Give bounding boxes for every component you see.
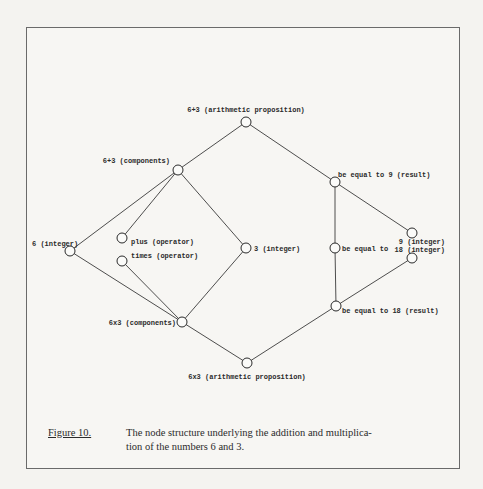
edge-add_prop-eq9: [246, 122, 335, 182]
edge-eq18-eighteen: [336, 258, 412, 306]
edge-add_comp-three: [178, 170, 246, 248]
label-times-operator: times (operator): [131, 252, 198, 260]
node-plus-operator: [117, 233, 127, 243]
node-add-proposition: [241, 117, 251, 127]
label-plus-operator: plus (operator): [131, 238, 194, 246]
edge-mul_prop-eq18: [247, 306, 336, 363]
node-three-integer: [241, 243, 251, 253]
node-times-operator: [117, 256, 127, 266]
node-be-equal-to: [330, 243, 340, 253]
edge-eq-eq18: [335, 248, 336, 306]
node-mul-proposition: [242, 358, 252, 368]
labels-layer: 6+3 (arithmetic proposition) 6+3 (compon…: [32, 106, 445, 381]
label-add-components: 6+3 (components): [103, 157, 170, 165]
label-equal-18-result: be equal to 18 (result): [342, 307, 439, 315]
label-mul-proposition: 6x3 (arithmetic proposition): [188, 373, 306, 381]
node-add-components: [173, 165, 183, 175]
edge-times-mul_comp: [122, 261, 182, 322]
edge-eq9-nine: [335, 182, 412, 233]
caption-text: The node structure underlying the additi…: [126, 426, 446, 454]
label-eighteen-integer: 18 (integer): [395, 246, 445, 254]
label-three-integer: 3 (integer): [254, 245, 300, 253]
node-equal-18-result: [331, 301, 341, 311]
caption-line-1: The node structure underlying the additi…: [126, 426, 446, 440]
caption-line-2: tion of the numbers 6 and 3.: [126, 440, 446, 454]
figure-number: Figure 10.: [48, 426, 91, 440]
label-nine-integer: 9 (integer): [399, 238, 445, 246]
node-mul-components: [177, 317, 187, 327]
label-add-proposition: 6+3 (arithmetic proposition): [187, 106, 305, 114]
node-eighteen-integer: [407, 253, 417, 263]
label-equal-9-result: be equal to 9 (result): [338, 171, 430, 179]
label-mul-components: 6x3 (components): [109, 319, 176, 327]
edge-add_comp-plus: [122, 170, 178, 238]
label-six-integer: 6 (integer): [32, 240, 78, 248]
node-structure-diagram: 6+3 (arithmetic proposition) 6+3 (compon…: [0, 0, 483, 489]
edge-add_prop-add_comp: [178, 122, 246, 170]
node-nine-integer: [407, 228, 417, 238]
edge-mul_comp-mul_prop: [182, 322, 247, 363]
label-be-equal-to: be equal to: [342, 245, 388, 253]
